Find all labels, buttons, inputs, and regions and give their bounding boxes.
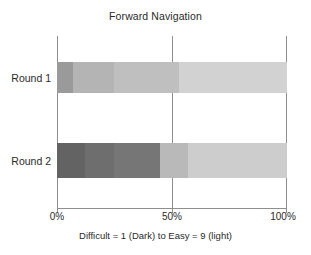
bar-segment — [114, 62, 178, 93]
category-label-round-1: Round 1 — [0, 72, 51, 84]
chart-title: Forward Navigation — [0, 10, 311, 22]
bar-segment — [114, 143, 160, 178]
plot-area — [57, 36, 287, 208]
stacked-bar-round-1 — [57, 62, 287, 93]
bar-segment — [160, 143, 188, 178]
tick-label-100: 100% — [263, 211, 303, 222]
x-axis-label: Difficult = 1 (Dark) to Easy = 9 (light) — [0, 230, 311, 241]
chart-container: Forward Navigation Round 1 Round 2 0% 50… — [0, 0, 311, 255]
tick-label-0: 0% — [37, 211, 77, 222]
bar-segment — [85, 143, 115, 178]
bar-segment — [57, 143, 85, 178]
bar-segment — [179, 62, 287, 93]
bar-segment — [57, 62, 73, 93]
tick-label-50: 50% — [152, 211, 192, 222]
bar-segment — [73, 62, 114, 93]
category-label-round-2: Round 2 — [0, 155, 51, 167]
bar-segment — [188, 143, 287, 178]
stacked-bar-round-2 — [57, 143, 287, 178]
